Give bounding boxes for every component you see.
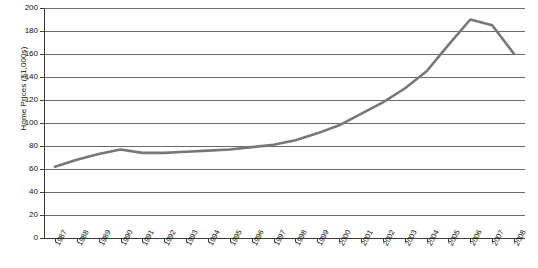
y-tick-label-60: 60 [12,164,38,173]
y-tick-mark-120 [40,100,44,101]
y-tick-mark-160 [40,54,44,55]
gridline-100 [45,123,525,124]
y-tick-label-20: 20 [12,210,38,219]
gridline-40 [45,192,525,193]
gridline-80 [45,146,525,147]
y-tick-label-100: 100 [12,118,38,127]
y-tick-label-180: 180 [12,26,38,35]
y-tick-label-120: 120 [12,95,38,104]
y-tick-label-140: 140 [12,72,38,81]
y-tick-label-0: 0 [12,233,38,242]
gridline-60 [45,169,525,170]
line-chart: Home Prices ($1,000s) 020406080100120140… [0,0,538,268]
y-tick-label-40: 40 [12,187,38,196]
y-tick-mark-0 [40,238,44,239]
gridline-180 [45,31,525,32]
y-tick-mark-20 [40,215,44,216]
gridline-120 [45,100,525,101]
y-tick-label-200: 200 [12,3,38,12]
plot-area [44,8,525,238]
gridline-160 [45,54,525,55]
gridline-20 [45,215,525,216]
y-tick-mark-200 [40,8,44,9]
y-tick-mark-40 [40,192,44,193]
y-tick-mark-140 [40,77,44,78]
y-tick-label-80: 80 [12,141,38,150]
y-tick-mark-100 [40,123,44,124]
y-tick-mark-80 [40,146,44,147]
y-axis-title: Home Prices ($1,000s) [19,19,28,159]
y-tick-mark-180 [40,31,44,32]
y-tick-label-160: 160 [12,49,38,58]
gridline-140 [45,77,525,78]
y-tick-mark-60 [40,169,44,170]
